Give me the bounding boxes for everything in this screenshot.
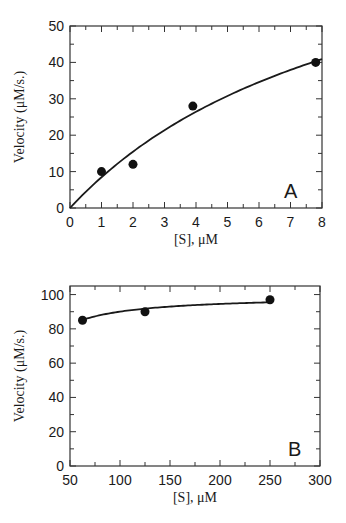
x-tick-label: 1 [98,214,106,230]
y-tick-label: 20 [48,424,64,440]
x-tick-label: 4 [192,214,200,230]
data-point [129,160,138,169]
y-tick-label: 10 [48,164,64,180]
panel-letter: B [288,438,301,460]
x-tick-label: 5 [224,214,232,230]
y-tick-label: 0 [56,200,64,216]
chart-panel-b: 50100150200250300020406080100[S], μMVelo… [12,286,332,505]
x-tick-label: 250 [258,472,282,488]
x-tick-label: 300 [308,472,332,488]
data-point [97,167,106,176]
x-tick-label: 2 [129,214,137,230]
y-tick-label: 20 [48,127,64,143]
data-point [188,102,197,111]
y-tick-label: 80 [48,321,64,337]
x-tick-label: 8 [318,214,326,230]
data-point [141,307,150,316]
x-tick-label: 150 [158,472,182,488]
y-tick-label: 100 [41,287,65,303]
y-axis-label: Velocity (μM/s.) [12,71,28,164]
y-tick-label: 50 [48,18,64,34]
x-tick-label: 7 [287,214,295,230]
x-tick-label: 100 [108,472,132,488]
panel-letter: A [284,180,298,202]
x-tick-label: 50 [62,472,78,488]
x-tick-label: 6 [255,214,263,230]
data-point [311,58,320,67]
fit-curve [83,302,271,320]
y-tick-label: 40 [48,389,64,405]
figure: 01234567801020304050[S], μMVelocity (μM/… [0,0,346,523]
y-tick-label: 0 [56,458,64,474]
chart-panel-a: 01234567801020304050[S], μMVelocity (μM/… [12,18,326,247]
x-tick-label: 0 [66,214,74,230]
x-axis-label: [S], μM [173,490,218,505]
y-tick-label: 30 [48,91,64,107]
y-tick-label: 60 [48,355,64,371]
x-axis-label: [S], μM [174,232,219,247]
x-tick-label: 200 [208,472,232,488]
data-point [266,295,275,304]
y-axis-label: Velocity (μM/s.) [12,330,28,423]
data-point [78,316,87,325]
y-tick-label: 40 [48,54,64,70]
x-tick-label: 3 [161,214,169,230]
